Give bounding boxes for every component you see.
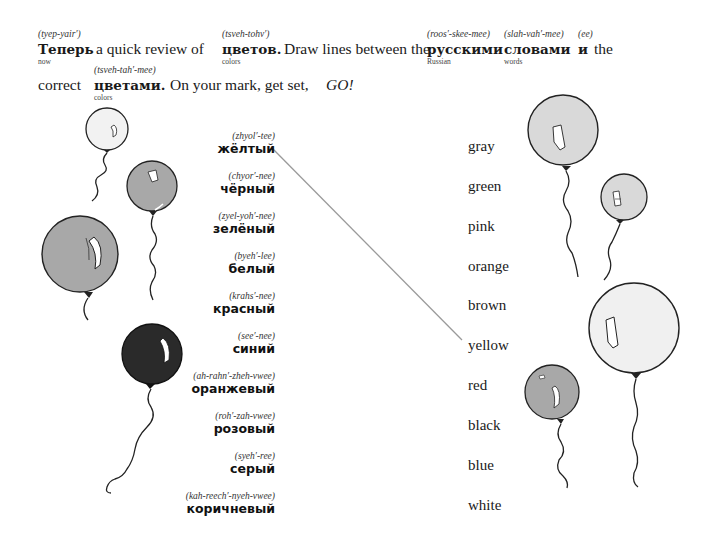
russian-word-item[interactable]: (krahs′-nee) красный [213,291,275,316]
russian-word: розовый [214,422,275,436]
intro-text: the [594,40,613,58]
gloss: words [504,57,522,66]
pronunciation: (ee) [578,29,593,39]
russian-word: коричневый [186,502,275,516]
vocab-teper: (tyep-yair′) Теперь now [38,40,94,58]
english-word-item[interactable]: white [468,497,501,514]
balloon-gray-medium [127,161,177,300]
russian-word-item[interactable]: (ah-rahn′-zheh-vwee) оранжевый [192,371,276,396]
english-word-item[interactable]: yellow [468,337,509,354]
russian-word-item[interactable]: (roh′-zah-vwee) розовый [214,411,275,436]
balloon-gray-large [42,216,118,320]
russian-word-item[interactable]: (zyel-yoh′-nee) зелёный [213,211,275,236]
russian-word: зелёный [213,222,275,236]
english-word-item[interactable]: orange [468,258,509,275]
russian-word: Теперь [38,41,94,57]
pronunciation: (slah-vah′-mee) [504,29,564,39]
russian-word: жёлтый [218,142,275,156]
intro-line-2: correct (tsveh-tah′-mee) цветами. colors… [38,76,715,104]
pronunciation: (roos′-skee-mee) [427,29,490,39]
russian-word-item[interactable]: (syeh′-ree) серый [230,451,275,476]
pronunciation: (tsveh-tohv′) [222,29,269,39]
russian-word: цветов. [222,41,281,57]
balloon-gray-small-right [525,365,579,488]
russian-word-item[interactable]: (byeh′-lee) белый [229,251,275,276]
russian-word: красный [213,302,275,316]
english-word-item[interactable]: green [468,178,501,195]
english-word-item[interactable]: red [468,377,487,394]
gloss: colors [94,93,112,102]
intro-text: On your mark, get set, [170,76,309,94]
english-word-item[interactable]: gray [468,138,495,155]
russian-word-item[interactable]: (zhyol′-tee) жёлтый [218,131,275,156]
russian-word: синий [233,342,275,356]
vocab-russkimi: (roos′-skee-mee) русскими Russian [427,40,503,58]
russian-word-item[interactable]: (kah-reech′-nyeh-vwee) коричневый [186,491,275,516]
gloss: Russian [427,57,451,66]
intro-text: Draw lines between the [284,40,430,58]
russian-word: серый [230,462,275,476]
vocab-slovami: (slah-vah′-mee) словами words [504,40,571,58]
intro-text: correct [38,76,81,94]
russian-word-item[interactable]: (see′-nee) синий [233,331,275,356]
russian-word: чёрный [220,182,275,196]
russian-word: цветами. [94,77,166,93]
balloon-lightgray-small [601,174,647,280]
english-word-item[interactable]: blue [468,457,494,474]
russian-word: русскими [427,41,503,57]
english-word-item[interactable]: brown [468,297,506,314]
balloon-lightgray-large [528,95,598,277]
vocab-tsvetami: (tsveh-tah′-mee) цветами. colors [94,76,166,94]
russian-word-item[interactable]: (chyor′-nee) чёрный [220,171,275,196]
intro-text-go: GO! [326,76,354,94]
russian-word: и [578,41,588,57]
russian-word: оранжевый [192,382,276,396]
pronunciation: (tsveh-tah′-mee) [94,65,156,75]
english-word-item[interactable]: pink [468,218,495,235]
vocab-tsvetov: (tsveh-tohv′) цветов. colors [222,40,281,58]
intro-text: a quick review of [96,40,204,58]
vocab-i: (ee) и [578,40,588,58]
intro-line-1: (tyep-yair′) Теперь now a quick review o… [38,40,715,68]
gloss: now [38,57,51,66]
russian-word: белый [229,262,275,276]
balloon-black [107,324,183,493]
gloss: colors [222,57,240,66]
english-word-item[interactable]: black [468,417,500,434]
answer-line-yellow [272,148,462,340]
balloon-white-small [86,108,128,201]
russian-word: словами [504,41,571,57]
balloon-white-large [589,283,679,487]
pronunciation: (tyep-yair′) [38,29,81,39]
